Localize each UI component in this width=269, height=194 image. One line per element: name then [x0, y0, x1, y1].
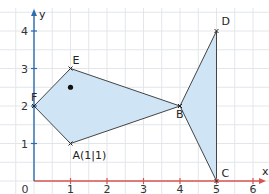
- point-b-label: B: [176, 108, 184, 121]
- x-tick-label: 3: [140, 183, 147, 194]
- point-c-label: C: [222, 167, 230, 180]
- x-tick-label: 1: [67, 183, 74, 194]
- y-axis-label: y: [39, 8, 46, 21]
- point-e-label: E: [73, 54, 80, 67]
- point-f-label: F: [31, 91, 37, 104]
- x-tick-label: 2: [104, 183, 111, 194]
- x-tick-label: 4: [177, 183, 184, 194]
- x-arrow-icon: [259, 178, 266, 184]
- point-a-label: A(1|1): [73, 149, 107, 162]
- x-tick-label: 6: [250, 183, 257, 194]
- y-tick-label: 3: [21, 63, 28, 76]
- y-tick-label: 2: [21, 100, 28, 113]
- coordinate-diagram: xy01234561234 A(1|1)BCDEF: [0, 0, 269, 194]
- y-tick-label: 1: [21, 138, 28, 151]
- fish-eye: [68, 85, 73, 90]
- y-tick-label: 4: [21, 25, 28, 38]
- x-axis-label: x: [262, 165, 269, 178]
- point-d-label: D: [222, 15, 230, 28]
- origin-label: 0: [22, 183, 29, 194]
- x-tick-label: 5: [213, 183, 220, 194]
